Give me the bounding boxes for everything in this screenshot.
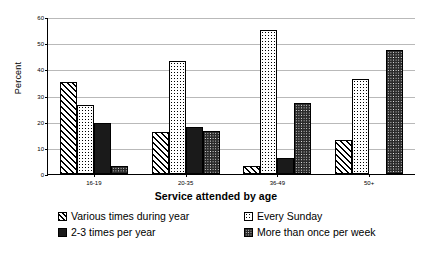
bar-chart: Percent 010203040506016-1920-3536-4950+ … (0, 0, 432, 253)
y-tick-label: 10 (37, 146, 44, 152)
legend-swatch-icon (58, 212, 67, 221)
x-tick-label: 20-35 (178, 180, 193, 186)
bar[interactable] (203, 131, 220, 174)
bar[interactable] (186, 127, 203, 174)
y-tick-label: 60 (37, 15, 44, 21)
bar[interactable] (111, 166, 128, 174)
bar-groups: 16-1920-3536-4950+ (48, 18, 415, 174)
y-axis-title: Percent (13, 62, 23, 94)
bar[interactable] (243, 166, 260, 174)
x-tick-label: 36-49 (270, 180, 285, 186)
bar[interactable] (94, 123, 111, 174)
x-tick-label: 16-19 (86, 180, 101, 186)
x-tick-mark (369, 174, 370, 177)
legend-label: Every Sunday (257, 210, 322, 222)
legend-item[interactable]: Various times during year (58, 210, 244, 222)
y-tick-label: 40 (37, 67, 44, 73)
legend-item[interactable]: 2-3 times per year (58, 226, 244, 238)
y-tick-label: 30 (37, 94, 44, 100)
chart-legend: Various times during yearEvery Sunday2-3… (58, 210, 424, 238)
bar[interactable] (169, 61, 186, 174)
bar-group: 20-35 (140, 18, 232, 174)
x-axis-title: Service attended by age (0, 190, 432, 202)
y-tick-label: 0 (41, 172, 44, 178)
bar[interactable] (260, 30, 277, 174)
legend-item[interactable]: More than once per week (244, 226, 424, 238)
plot-area: 010203040506016-1920-3536-4950+ (47, 18, 415, 175)
bar-group: 50+ (323, 18, 415, 174)
x-tick-mark (277, 174, 278, 177)
bar[interactable] (277, 158, 294, 174)
legend-item[interactable]: Every Sunday (244, 210, 424, 222)
legend-swatch-icon (244, 212, 253, 221)
legend-swatch-icon (244, 228, 253, 237)
x-tick-mark (94, 174, 95, 177)
bar[interactable] (77, 105, 94, 174)
x-tick-label: 50+ (364, 180, 374, 186)
legend-label: More than once per week (257, 226, 375, 238)
bar[interactable] (294, 103, 311, 174)
y-tick-label: 20 (37, 120, 44, 126)
legend-label: Various times during year (71, 210, 189, 222)
legend-label: 2-3 times per year (71, 226, 156, 238)
bar[interactable] (152, 132, 169, 174)
legend-swatch-icon (58, 228, 67, 237)
bar-group: 16-19 (48, 18, 140, 174)
x-tick-mark (186, 174, 187, 177)
bar[interactable] (60, 82, 77, 174)
y-tick-mark (45, 175, 48, 176)
y-tick-label: 50 (37, 41, 44, 47)
bar-group: 36-49 (232, 18, 324, 174)
bar[interactable] (352, 79, 369, 175)
bar[interactable] (386, 50, 403, 174)
bar[interactable] (335, 140, 352, 174)
